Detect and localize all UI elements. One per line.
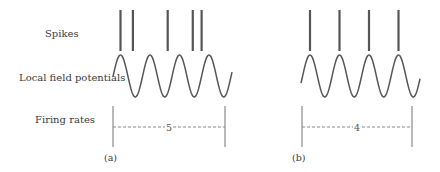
row-label-lfp: Local field potentials: [19, 72, 125, 83]
spike-train-b: [310, 10, 399, 51]
firing-rate-count-b: 4: [354, 122, 360, 133]
panel-b: 4 (b): [292, 10, 420, 163]
spike-lfp-diagram: Spikes Local field potentials Firing rat…: [0, 0, 440, 172]
spike-train-a: [121, 10, 202, 51]
lfp-wave-a: [113, 55, 232, 97]
row-label-firing-rates: Firing rates: [35, 114, 95, 125]
row-label-spikes: Spikes: [45, 28, 79, 39]
firing-rate-count-a: 5: [166, 122, 172, 133]
lfp-wave-b: [301, 55, 420, 97]
panel-label-b: (b): [292, 152, 306, 163]
panel-label-a: (a): [104, 152, 117, 163]
panel-a: 5 (a): [104, 10, 232, 163]
